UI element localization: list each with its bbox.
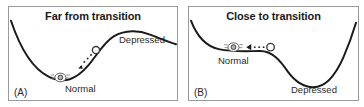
panel-b-label-normal: Normal xyxy=(218,55,249,66)
panel-b-title: Close to transition xyxy=(189,10,358,22)
recovery-arrow-b xyxy=(246,44,264,50)
panel-a-title: Far from transition xyxy=(9,10,177,22)
panel-a: Far from transition Normal Depressed (A) xyxy=(8,6,178,101)
panel-b-tag: (B) xyxy=(194,87,207,98)
panel-a-label-depressed: Depressed xyxy=(119,34,165,45)
perturbed-state-circle-b xyxy=(267,43,275,50)
panel-b-label-depressed: Depressed xyxy=(291,84,337,95)
figure-container: Far from transition Normal Depressed (A) xyxy=(0,0,364,107)
potential-curve-b xyxy=(191,21,356,88)
arrowhead-b xyxy=(246,44,251,50)
arrowhead-a xyxy=(78,65,83,69)
perturbed-state-circle-a xyxy=(92,47,99,54)
panel-a-tag: (A) xyxy=(14,87,27,98)
recovery-arrow-a xyxy=(78,54,92,69)
panel-a-label-normal: Normal xyxy=(65,83,96,94)
panel-b: Close to transition Normal Depressed (B) xyxy=(188,6,359,101)
